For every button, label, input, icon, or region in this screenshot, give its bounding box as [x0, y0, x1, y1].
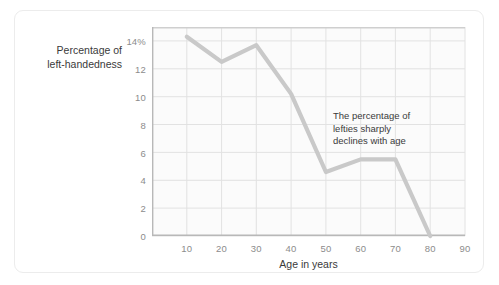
x-tick-label: 70	[390, 243, 401, 254]
x-tick-label: 50	[320, 243, 331, 254]
x-tick-label: 60	[355, 243, 366, 254]
y-tick-label: 10	[135, 91, 146, 102]
x-axis-title: Age in years	[152, 258, 465, 270]
x-tick-label: 90	[460, 243, 471, 254]
y-tick-label: 14%	[126, 36, 146, 47]
x-tick-label: 30	[251, 243, 262, 254]
x-axis-tick-labels: 10 20 30 40 50 60 70 80 90	[0, 243, 499, 257]
annotation-line-2: lefties sharply	[333, 123, 441, 136]
annotation-line-1: The percentage of	[333, 110, 441, 123]
x-tick-label: 40	[286, 243, 297, 254]
x-tick-label: 10	[181, 243, 192, 254]
chart-figure: Percentage of left-handedness 0 2 4 6 8 …	[0, 0, 499, 285]
chart-annotation: The percentage of lefties sharply declin…	[333, 110, 441, 148]
y-tick-label: 2	[141, 203, 146, 214]
plot-area: The percentage of lefties sharply declin…	[152, 27, 465, 236]
annotation-line-3: declines with age	[333, 135, 441, 148]
y-tick-label: 12	[135, 64, 146, 75]
x-tick-label: 20	[216, 243, 227, 254]
screenshot-root: Percentage of left-handedness 0 2 4 6 8 …	[0, 0, 499, 285]
y-tick-label: 0	[141, 231, 146, 242]
x-tick-label: 80	[425, 243, 436, 254]
y-tick-label: 6	[141, 147, 146, 158]
y-tick-label: 8	[141, 119, 146, 130]
y-tick-label: 4	[141, 175, 146, 186]
